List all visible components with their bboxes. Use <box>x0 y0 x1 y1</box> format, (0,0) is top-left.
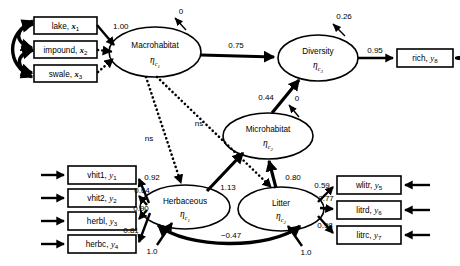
latent-node-diversity[interactable]: Diversity ηc3 <box>278 35 358 81</box>
indicator-label-x2: impound,x2 <box>44 45 88 56</box>
coef-macrohabitat-herbaceous-ns: ns <box>145 134 153 143</box>
latent-label-herbaceous: Herbaceous <box>163 197 207 206</box>
latent-node-herbaceous[interactable]: Herbaceous ηc1 <box>140 185 230 229</box>
coef-litter-y5: 0.59 <box>314 181 330 190</box>
path-x3-to-macrohabitat <box>98 59 113 72</box>
coef-herbaceous-microhabitat: 1.13 <box>220 183 236 192</box>
disturbance-value-diversity: 0.26 <box>336 12 352 21</box>
indicator-label-y4: herbc,y4 <box>86 239 119 250</box>
coef-herbaceous-litter-correlation: −0.47 <box>221 231 242 240</box>
coef-herbaceous-y1: 0.92 <box>144 173 160 182</box>
latent-label-microhabitat: Microhabitat <box>246 125 291 134</box>
sem-path-diagram: lake,x1 impound,x2 swale,x3 Macrohabitat… <box>0 0 460 266</box>
path-macrohabitat-to-diversity <box>201 55 274 57</box>
exogenous-indicator-group: lake,x1 impound,x2 swale,x3 <box>34 17 97 82</box>
disturbance-arrow-diversity <box>333 24 345 36</box>
path-macrohabitat-to-herbaceous <box>146 77 181 183</box>
disturbance-arrow-macrohabitat <box>175 18 186 30</box>
exogenous-correlation-arrows <box>13 21 33 77</box>
coef-litter-y7: 0.98 <box>317 221 333 230</box>
indicator-label-x1: lake,x1 <box>52 21 80 32</box>
coef-microhabitat-diversity: 0.44 <box>258 93 274 102</box>
latent-ellipse-macrohabitat[interactable] <box>109 27 201 77</box>
coef-herbaceous-y3: 0.90 <box>133 204 149 213</box>
latent-ellipse-herbaceous[interactable] <box>140 185 230 229</box>
herbaceous-indicator-group: vhit1,y1 vhit2,y2 herbl,y3 herbc,y4 <box>68 166 136 253</box>
latent-ellipse-microhabitat[interactable] <box>223 113 313 159</box>
coef-litter-microhabitat: 0.80 <box>285 173 301 182</box>
disturbance-value-macrohabitat: 0 <box>179 7 184 16</box>
coef-x1-macrohabitat: 1.00 <box>113 22 129 31</box>
path-litter-to-microhabitat <box>269 161 276 188</box>
coef-macrohabitat-diversity: 0.75 <box>228 41 244 50</box>
disturbance-value-litter: 1.0 <box>300 248 312 257</box>
coef-macrohabitat-litter-ns: ns <box>195 119 203 128</box>
indicator-label-y5: wlitr,y5 <box>355 180 383 191</box>
latent-label-litter: Litter <box>272 199 290 208</box>
disturbance-value-herbaceous: 1.0 <box>146 247 158 256</box>
latent-ellipse-litter[interactable] <box>238 187 324 231</box>
indicator-label-y3: herbl,y3 <box>87 216 118 227</box>
disturbance-value-microhabitat: 0 <box>295 94 300 103</box>
indicator-label-y1: vhit1,y1 <box>87 170 117 181</box>
latent-node-macrohabitat[interactable]: Macrohabitat ηc1 <box>109 27 201 77</box>
indicator-label-x3: swale,x3 <box>49 69 83 80</box>
latent-ellipse-diversity[interactable] <box>278 35 358 81</box>
latent-node-microhabitat[interactable]: Microhabitat ηc2 <box>223 113 313 159</box>
path-x1-to-macrohabitat <box>97 25 114 45</box>
coef-herbaceous-y2: 0.64 <box>134 186 150 195</box>
litter-indicator-group: wlitr,y5 litrd,y6 litrc,y7 <box>337 176 401 244</box>
coef-herbaceous-y4: 0.81 <box>123 226 139 235</box>
indicator-label-y2: vhit2,y2 <box>87 193 117 204</box>
coef-litter-y6: 0.77 <box>318 194 334 203</box>
path-litter-to-y6 <box>320 208 333 209</box>
coef-diversity-y8: 0.95 <box>367 46 383 55</box>
latent-label-diversity: Diversity <box>302 47 334 56</box>
latent-label-macrohabitat: Macrohabitat <box>131 41 179 50</box>
latent-node-litter[interactable]: Litter ηc2 <box>238 187 324 231</box>
